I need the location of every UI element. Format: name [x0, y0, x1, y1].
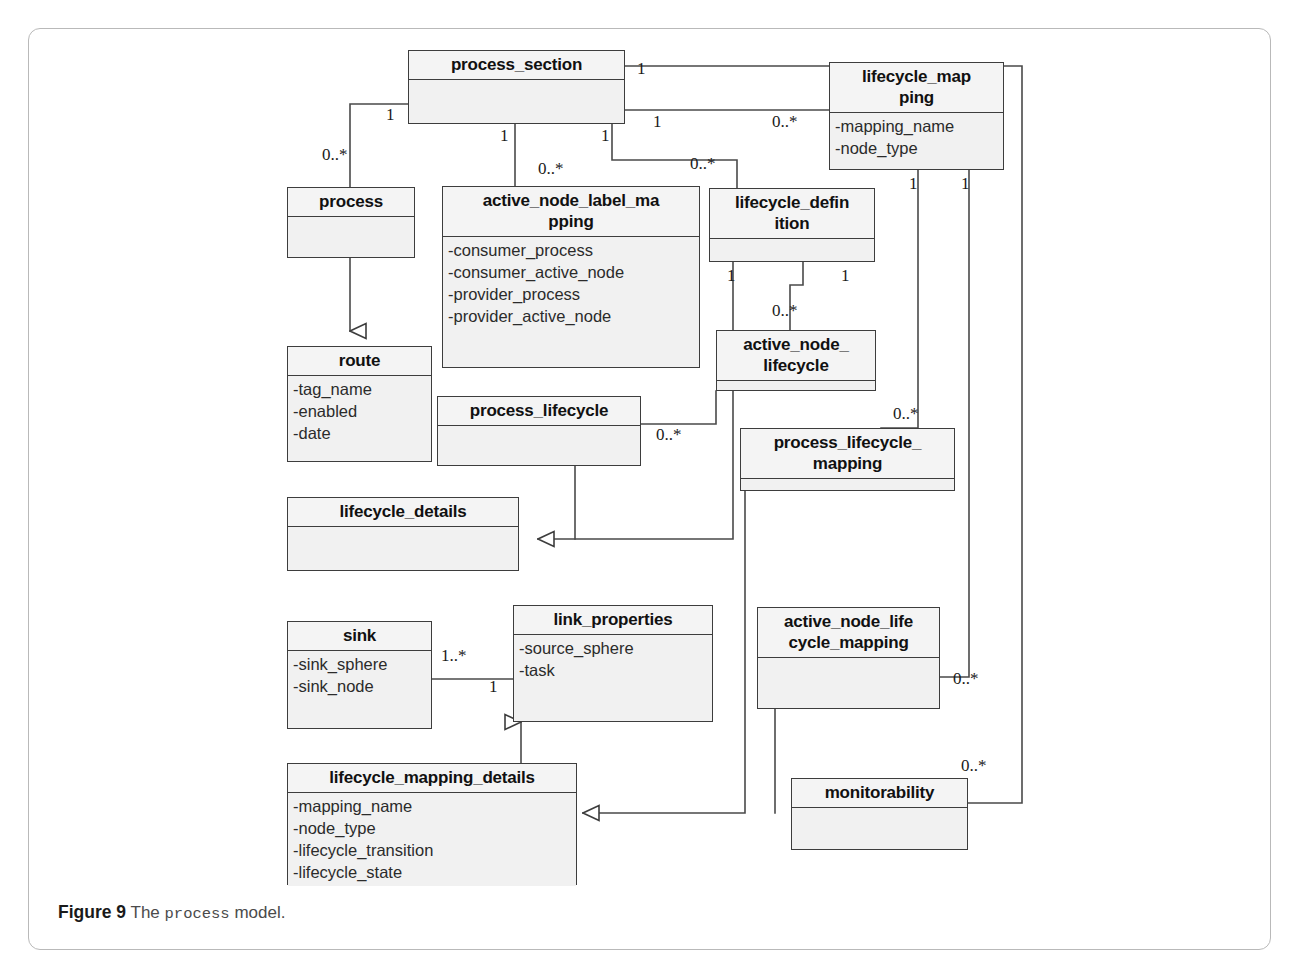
uml-attribute: -enabled: [293, 400, 427, 422]
multiplicity-label: 1: [386, 106, 395, 124]
edge-process-section-to-lifecycle-definition: [612, 124, 737, 188]
multiplicity-label: 1: [961, 175, 970, 193]
multiplicity-label: 0..*: [961, 757, 987, 775]
uml-class-name: process_lifecycle_ mapping: [741, 429, 954, 479]
uml-class-process-section[interactable]: process_section: [408, 50, 625, 124]
uml-connector-layer: [0, 0, 1299, 980]
figure-caption-mono: process: [165, 905, 230, 923]
uml-class-name: lifecycle_details: [288, 498, 518, 527]
uml-class-link-properties[interactable]: link_properties -source_sphere -task: [513, 605, 713, 722]
uml-attributes: -tag_name -enabled -date: [288, 376, 431, 461]
uml-class-name: process_lifecycle: [438, 397, 640, 426]
uml-class-active-node-lifecycle[interactable]: active_node_ lifecycle: [716, 330, 876, 391]
uml-attribute: -node_type: [835, 137, 999, 159]
uml-attributes: -sink_sphere -sink_node: [288, 651, 431, 728]
uml-attribute: -mapping_name: [835, 115, 999, 137]
uml-class-name: link_properties: [514, 606, 712, 635]
uml-attribute: -lifecycle_transition: [293, 839, 572, 861]
uml-class-sink[interactable]: sink -sink_sphere -sink_node: [287, 621, 432, 729]
edge-process-lifecycle-to-anl: [641, 391, 716, 424]
uml-class-name: lifecycle_defin ition: [710, 189, 874, 239]
uml-class-process-lifecycle[interactable]: process_lifecycle: [437, 396, 641, 466]
uml-attribute: -source_sphere: [519, 637, 708, 659]
uml-attributes: [792, 808, 967, 849]
multiplicity-label: 1: [727, 267, 736, 285]
uml-attribute: -lifecycle_state: [293, 861, 572, 883]
multiplicity-label: 1: [601, 127, 610, 145]
uml-class-name: process_section: [409, 51, 624, 80]
multiplicity-label: 0..*: [690, 155, 716, 173]
multiplicity-label: 1: [489, 678, 498, 696]
multiplicity-label: 0..*: [322, 146, 348, 164]
multiplicity-label: 0..*: [953, 670, 979, 688]
uml-attribute: -consumer_active_node: [448, 261, 695, 283]
uml-attributes: [409, 80, 624, 123]
figure-caption-after: model.: [234, 903, 285, 922]
uml-attributes: [741, 479, 954, 490]
figure-caption: Figure 9 The process model.: [58, 901, 285, 925]
multiplicity-label: 1: [653, 113, 662, 131]
uml-class-name: route: [288, 347, 431, 376]
uml-attribute: -node_type: [293, 817, 572, 839]
figure-caption-before: The: [131, 903, 160, 922]
figure-caption-label: Figure 9: [58, 902, 126, 922]
uml-class-name: process: [288, 188, 414, 217]
uml-class-name: active_node_ lifecycle: [717, 331, 875, 381]
multiplicity-label: 0..*: [772, 302, 798, 320]
uml-attribute: -provider_active_node: [448, 305, 695, 327]
uml-attribute: -date: [293, 422, 427, 444]
multiplicity-label: 1: [841, 267, 850, 285]
uml-attributes: [438, 426, 640, 465]
edge-lifecycle-mapping-to-anlcm: [940, 170, 969, 677]
uml-attributes: [710, 239, 874, 261]
edge-lifecycle-mapping-to-plm: [881, 170, 918, 428]
uml-attribute: -task: [519, 659, 708, 681]
figure-page: process_section lifecycle_map ping -mapp…: [0, 0, 1299, 980]
uml-attribute: -mapping_name: [293, 795, 572, 817]
uml-class-process-lifecycle-mapping[interactable]: process_lifecycle_ mapping: [740, 428, 955, 491]
uml-attributes: -mapping_name -node_type: [830, 113, 1003, 169]
uml-class-name: active_node_life cycle_mapping: [758, 608, 939, 658]
uml-attribute: -sink_node: [293, 675, 427, 697]
multiplicity-label: 1: [637, 60, 646, 78]
uml-class-lifecycle-mapping[interactable]: lifecycle_map ping -mapping_name -node_t…: [829, 62, 1004, 170]
uml-class-name: lifecycle_map ping: [830, 63, 1003, 113]
uml-class-name: lifecycle_mapping_details: [288, 764, 576, 793]
multiplicity-label: 1..*: [441, 647, 467, 665]
uml-attributes: [288, 527, 518, 570]
edge-process-section-to-process: [350, 104, 408, 190]
uml-class-lifecycle-definition[interactable]: lifecycle_defin ition: [709, 188, 875, 262]
uml-class-active-node-label-mapping[interactable]: active_node_label_ma pping -consumer_pro…: [442, 186, 700, 368]
uml-attribute: -provider_process: [448, 283, 695, 305]
uml-attributes: -mapping_name -node_type -lifecycle_tran…: [288, 793, 576, 886]
uml-class-active-node-lifecycle-mapping[interactable]: active_node_life cycle_mapping: [757, 607, 940, 709]
uml-class-name: sink: [288, 622, 431, 651]
uml-attribute: -sink_sphere: [293, 653, 427, 675]
uml-attribute: -tag_name: [293, 378, 427, 400]
uml-class-lifecycle-details[interactable]: lifecycle_details: [287, 497, 519, 571]
uml-class-name: active_node_label_ma pping: [443, 187, 699, 237]
uml-class-route[interactable]: route -tag_name -enabled -date: [287, 346, 432, 462]
uml-class-monitorability[interactable]: monitorability: [791, 778, 968, 850]
uml-attributes: [288, 217, 414, 257]
multiplicity-label: 1: [500, 127, 509, 145]
multiplicity-label: 0..*: [893, 405, 919, 423]
multiplicity-label: 0..*: [772, 113, 798, 131]
uml-class-lifecycle-mapping-details[interactable]: lifecycle_mapping_details -mapping_name …: [287, 763, 577, 885]
uml-attributes: -consumer_process -consumer_active_node …: [443, 237, 699, 367]
uml-class-name: monitorability: [792, 779, 967, 808]
uml-attributes: [717, 381, 875, 390]
uml-class-process[interactable]: process: [287, 187, 415, 258]
uml-attributes: -source_sphere -task: [514, 635, 712, 721]
uml-attributes: [758, 658, 939, 708]
multiplicity-label: 0..*: [656, 426, 682, 444]
multiplicity-label: 1: [909, 175, 918, 193]
uml-attribute: -consumer_process: [448, 239, 695, 261]
multiplicity-label: 0..*: [538, 160, 564, 178]
